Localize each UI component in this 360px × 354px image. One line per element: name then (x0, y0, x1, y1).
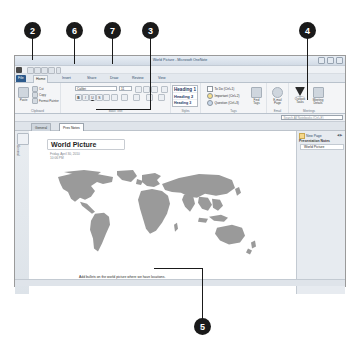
world-map-svg (49, 169, 259, 261)
callout-leader-5 (202, 268, 203, 320)
section-tab-bar: General Pres Notes (15, 122, 345, 131)
copy-label: Copy (39, 93, 46, 97)
ribbon-group-clipboard: Paste Cut Copy Format Painter Clipboard (15, 83, 61, 113)
section-tab-pres-notes[interactable]: Pres Notes (59, 123, 84, 131)
page-date: Friday, April 30, 2010 10:06 PM (50, 152, 80, 160)
meetings-group-label: Meetings (289, 109, 329, 113)
page-canvas[interactable]: World Picture Friday, April 30, 2010 10:… (29, 131, 297, 294)
callout-badge-4: 4 (299, 22, 316, 39)
callout-leader-3-horizontal (96, 109, 151, 110)
bullets-icon[interactable] (135, 86, 142, 93)
tags-group-label: Tags (201, 109, 266, 113)
search-row: Search All Notebooks (Ctrl+E) (15, 114, 345, 122)
font-size-value: 11 (121, 87, 124, 91)
screenshot-root: 2 6 7 3 4 5 World Picture - Microsoft On… (0, 0, 360, 354)
print-icon[interactable] (48, 67, 55, 74)
ribbon-group-tags: To Do (Ctrl+1) Important (Ctrl+2) Questi… (201, 83, 267, 113)
tag-todo[interactable]: To Do (Ctrl+1) (207, 86, 234, 92)
bold-button[interactable]: B (75, 94, 82, 101)
body-area: General World Picture Friday, April 30, … (15, 131, 345, 294)
callout-leader-2 (32, 38, 33, 60)
highlight-icon[interactable] (121, 94, 128, 101)
section-tab-general[interactable]: General (31, 123, 51, 131)
strikethrough-button[interactable]: S (96, 94, 103, 101)
full-page-icon[interactable] (41, 67, 48, 74)
outlook-tasks-button[interactable]: Outlook Tasks (293, 86, 307, 104)
undo-icon[interactable] (27, 67, 34, 74)
page-time-text: 10:06 PM (50, 156, 80, 160)
customize-icon[interactable] (56, 67, 61, 74)
superscript-icon[interactable] (111, 94, 118, 101)
style-heading-3[interactable]: Heading 3 (173, 100, 197, 106)
italic-button[interactable]: I (82, 94, 89, 101)
clipboard-group-label: Clipboard (15, 109, 60, 113)
increase-indent-icon[interactable] (161, 86, 168, 93)
style-heading-2[interactable]: Heading 2 (173, 93, 197, 100)
tab-review[interactable]: Review (130, 75, 145, 83)
meeting-details-button[interactable]: Meeting Details (310, 86, 326, 104)
email-page-label: E-mail Page (272, 99, 283, 106)
restore-icon[interactable] (327, 57, 334, 64)
todo-checkbox-icon (207, 86, 213, 92)
search-placeholder: Search All Notebooks (Ctrl+E) (284, 116, 324, 120)
format-painter-icon (32, 98, 38, 104)
font-size-combo[interactable]: 11 (119, 86, 132, 91)
paste-icon (18, 87, 29, 98)
callout-badge-5: 5 (194, 318, 211, 335)
ribbon: Paste Cut Copy Format Painter Clipboard … (15, 83, 345, 114)
search-input[interactable]: Search All Notebooks (Ctrl+E) (281, 115, 343, 120)
ribbon-group-email: E-mail Page Email (267, 83, 289, 113)
page-list-pane: New Page ◀▶ Presentation Notes World Pic… (296, 131, 345, 294)
tab-insert[interactable]: Insert (60, 75, 73, 83)
tab-draw[interactable]: Draw (108, 75, 120, 83)
meeting-details-icon (313, 87, 324, 98)
tag-question[interactable]: Question (Ctrl+3) (207, 100, 239, 106)
callout-badge-3: 3 (142, 22, 159, 39)
tab-share[interactable]: Share (85, 75, 98, 83)
quick-access-toolbar (15, 66, 345, 74)
font-name-combo[interactable]: Calibri (75, 86, 117, 91)
page-list-item-world-picture[interactable]: World Picture (300, 144, 344, 150)
decrease-indent-icon[interactable] (151, 86, 158, 93)
tab-view[interactable]: View (156, 75, 168, 83)
callout-leader-3 (150, 38, 151, 109)
callout-leader-7 (112, 38, 113, 64)
notebook-label: General (16, 145, 20, 156)
notebook-button[interactable] (17, 133, 29, 145)
save-icon[interactable] (16, 67, 22, 73)
question-icon (207, 100, 213, 106)
callout-badge-7: 7 (104, 22, 121, 39)
style-heading-1[interactable]: Heading 1 (173, 86, 197, 93)
tag-todo-label: To Do (Ctrl+1) (215, 87, 235, 91)
styles-gallery[interactable]: Heading 1 Heading 2 Heading 3 (172, 85, 198, 107)
onenote-window: World Picture - Microsoft OneNote File H… (14, 55, 346, 287)
paste-label: Paste (18, 99, 29, 103)
pane-section-header: Presentation Notes (299, 139, 330, 143)
paste-button[interactable]: Paste (18, 86, 29, 104)
callout-leader-4 (307, 38, 308, 100)
close-icon[interactable] (336, 57, 343, 64)
email-page-button[interactable]: E-mail Page (272, 86, 283, 104)
clear-formatting-icon[interactable] (158, 94, 165, 101)
numbering-icon[interactable] (143, 86, 150, 93)
format-painter-button[interactable]: Format Painter (32, 98, 59, 104)
tag-important-label: Important (Ctrl+2) (215, 94, 240, 98)
tab-file[interactable]: File (16, 75, 26, 83)
cut-label: Cut (39, 87, 44, 91)
tab-home[interactable]: Home (33, 75, 48, 84)
subscript-icon[interactable] (103, 94, 110, 101)
font-name-value: Calibri (77, 87, 86, 91)
minimize-icon[interactable] (318, 57, 325, 64)
underline-button[interactable]: U (89, 94, 96, 101)
tag-important[interactable]: Important (Ctrl+2) (207, 93, 240, 99)
pane-nav-arrows[interactable]: ◀▶ (337, 133, 343, 137)
ribbon-tab-strip: File Home Insert Share Draw Review View (15, 74, 345, 83)
find-tags-button[interactable]: Find Tags (251, 86, 262, 104)
world-map-image[interactable] (49, 169, 259, 261)
page-title[interactable]: World Picture (47, 139, 125, 150)
navigation-bar: General (15, 131, 30, 294)
outlook-tasks-label: Outlook Tasks (293, 98, 307, 105)
ribbon-group-meetings: Outlook Tasks Meeting Details Meetings (289, 83, 347, 113)
dock-icon[interactable] (34, 67, 41, 74)
font-color-icon[interactable] (133, 94, 140, 101)
